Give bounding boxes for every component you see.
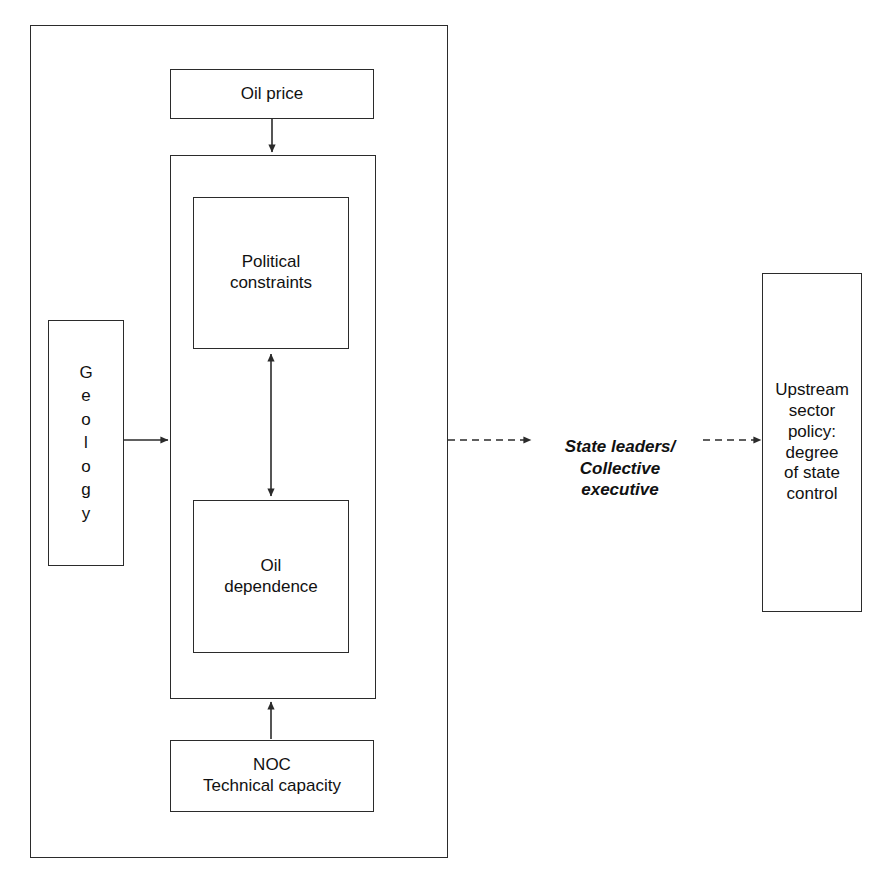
node-geology[interactable]: G e o l o g y [48, 320, 124, 566]
node-state-leaders-label: State leaders/ Collective executive [540, 436, 700, 500]
node-oil-dependence[interactable]: Oil dependence [193, 500, 349, 653]
node-oil-price-label: Oil price [241, 84, 303, 105]
node-upstream-sector-policy[interactable]: Upstream sector policy: degree of state … [762, 273, 862, 612]
node-upstream-sector-policy-label: Upstream sector policy: degree of state … [775, 380, 849, 504]
node-geology-label: G e o l o g y [79, 361, 92, 525]
diagram-canvas: Oil price Political constraints Oil depe… [0, 0, 889, 883]
node-oil-dependence-label: Oil dependence [224, 556, 318, 597]
node-political-constraints[interactable]: Political constraints [193, 197, 349, 349]
node-political-constraints-label: Political constraints [230, 252, 312, 293]
node-oil-price[interactable]: Oil price [170, 69, 374, 119]
node-noc-technical-capacity[interactable]: NOC Technical capacity [170, 740, 374, 812]
node-state-leaders: State leaders/ Collective executive [540, 415, 700, 521]
node-noc-technical-capacity-label: NOC Technical capacity [203, 755, 341, 796]
